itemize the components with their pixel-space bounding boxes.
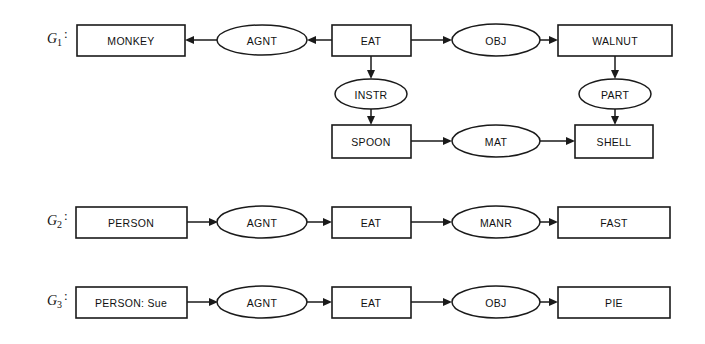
node-monkey-label: MONKEY <box>107 35 154 47</box>
node-mat-g1[interactable]: MAT <box>452 125 540 157</box>
arrow-head-obj-walnut <box>549 36 558 44</box>
node-instr-g1[interactable]: INSTR <box>335 79 407 109</box>
node-walnut[interactable]: WALNUT <box>558 25 672 56</box>
node-agnt-g3-label: AGNT <box>247 297 278 309</box>
node-manr-g2[interactable]: MANR <box>452 206 540 238</box>
node-eat-g3-label: EAT <box>361 297 382 309</box>
edge-agnt-monkey-g1 <box>185 36 217 44</box>
edge-eat-manr-g2 <box>411 218 452 226</box>
node-manr-g2-label: MANR <box>480 217 512 229</box>
node-eat-g1[interactable]: EAT <box>332 25 411 56</box>
diagram-canvas: G 1 : MONKEY AGNT EAT OBJ WALNUT <box>0 0 705 344</box>
arrow-head-eat-obj-g3 <box>443 298 452 306</box>
node-agnt-g2-label: AGNT <box>247 217 278 229</box>
edge-eat-obj-g3 <box>411 298 452 306</box>
arrow-head-eat-agnt <box>307 36 316 44</box>
graph-label-g2: G 2 : <box>47 208 68 230</box>
node-agnt-g1[interactable]: AGNT <box>217 25 307 55</box>
graph-label-g1-colon: : <box>64 26 68 41</box>
node-person-g3[interactable]: PERSON: Sue <box>76 287 187 318</box>
edge-instr-spoon-g1 <box>367 109 375 125</box>
node-pie-g3-label: PIE <box>605 297 623 309</box>
edge-walnut-part-g1 <box>611 56 619 79</box>
node-pie-g3[interactable]: PIE <box>558 287 670 318</box>
edge-obj-walnut-g1 <box>540 36 558 44</box>
arrow-head-manr-fast-g2 <box>549 218 558 226</box>
node-eat-g2-label: EAT <box>361 217 382 229</box>
graph-label-g2-subscript: 2 <box>57 219 62 230</box>
node-agnt-g3[interactable]: AGNT <box>217 286 307 318</box>
node-obj-g3-label: OBJ <box>485 297 506 309</box>
edge-eat-agnt-g1 <box>307 36 332 44</box>
edge-manr-fast-g2 <box>540 218 558 226</box>
node-person-g3-label: PERSON: Sue <box>95 297 167 309</box>
edge-agnt-eat-g3 <box>307 298 332 306</box>
arrow-head-obj-pie-g3 <box>549 298 558 306</box>
arrow-head-agnt-eat-g2 <box>323 218 332 226</box>
node-obj-g3[interactable]: OBJ <box>452 286 540 318</box>
node-eat-g2[interactable]: EAT <box>332 207 411 238</box>
node-eat-g3[interactable]: EAT <box>332 287 411 318</box>
node-agnt-g1-label: AGNT <box>247 35 278 47</box>
graph-label-g3: G 3 : <box>47 288 68 310</box>
edge-agnt-eat-g2 <box>307 218 332 226</box>
graph-label-g1-base: G <box>47 31 57 46</box>
node-shell-label: SHELL <box>597 136 632 148</box>
node-obj-g1-label: OBJ <box>485 35 506 47</box>
graph-label-g1: G 1 : <box>47 26 68 48</box>
arrow-head-instr-spoon <box>367 116 375 125</box>
arrow-head-agnt-monkey <box>185 36 194 44</box>
node-spoon[interactable]: SPOON <box>332 125 411 158</box>
edge-obj-pie-g3 <box>540 298 558 306</box>
node-eat-g1-label: EAT <box>361 35 382 47</box>
arrow-head-walnut-part <box>611 70 619 79</box>
arrow-head-part-shell <box>611 116 619 125</box>
arrow-head-eat-obj <box>443 36 452 44</box>
conceptual-graph-figure: G 1 : MONKEY AGNT EAT OBJ WALNUT <box>0 0 705 344</box>
graph-label-g3-base: G <box>47 293 57 308</box>
edge-eat-instr-g1 <box>367 56 375 79</box>
graph-label-g3-subscript: 3 <box>57 299 62 310</box>
arrow-head-agnt-eat-g3 <box>323 298 332 306</box>
node-instr-g1-label: INSTR <box>355 89 388 101</box>
edge-person-agnt-g2 <box>187 218 218 226</box>
graph-label-g2-colon: : <box>64 208 68 223</box>
edge-spoon-mat-g1 <box>411 137 452 145</box>
node-obj-g1[interactable]: OBJ <box>452 24 540 56</box>
arrow-head-spoon-mat <box>443 137 452 145</box>
arrow-head-eat-manr-g2 <box>443 218 452 226</box>
node-fast-g2-label: FAST <box>600 217 628 229</box>
arrow-head-eat-instr <box>367 70 375 79</box>
edge-mat-shell-g1 <box>540 137 575 145</box>
graph-label-g1-subscript: 1 <box>57 37 62 48</box>
node-walnut-label: WALNUT <box>592 35 638 47</box>
node-person-g2-label: PERSON <box>108 217 154 229</box>
node-agnt-g2[interactable]: AGNT <box>217 206 307 238</box>
node-mat-g1-label: MAT <box>485 136 508 148</box>
edge-eat-obj-g1 <box>411 36 452 44</box>
arrow-head-mat-shell <box>566 137 575 145</box>
node-monkey[interactable]: MONKEY <box>77 25 185 56</box>
node-shell[interactable]: SHELL <box>575 125 653 158</box>
node-person-g2[interactable]: PERSON <box>76 207 187 238</box>
node-spoon-label: SPOON <box>351 136 390 148</box>
node-part-g1-label: PART <box>601 89 630 101</box>
edge-part-shell-g1 <box>611 109 619 125</box>
graph-label-g3-colon: : <box>64 288 68 303</box>
node-part-g1[interactable]: PART <box>579 79 651 109</box>
edge-person-agnt-g3 <box>187 298 218 306</box>
graph-label-g2-base: G <box>47 213 57 228</box>
node-fast-g2[interactable]: FAST <box>558 207 670 238</box>
